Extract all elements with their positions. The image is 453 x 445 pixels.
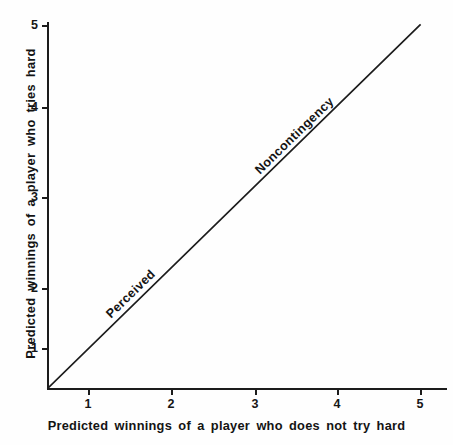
chart-figure: 1 2 3 4 5 1 2 3 4 5 Perceived Nonconting… bbox=[0, 0, 453, 445]
x-axis-title: Predicted winnings of a player who does … bbox=[0, 418, 453, 433]
plot-area bbox=[0, 0, 453, 445]
y-axis-title: Predicted winnings of a player who tries… bbox=[23, 4, 38, 404]
identity-line-series bbox=[48, 25, 420, 388]
